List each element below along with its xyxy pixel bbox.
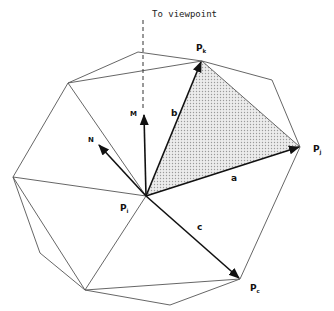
shaded-triangle <box>146 61 300 196</box>
point-pj-label: Pj <box>313 144 322 156</box>
to-viewpoint-label: To viewpoint <box>152 9 217 19</box>
vector-c-arrow <box>146 196 239 278</box>
triangulated-mesh-diagram: To viewpoint Pk Pj Pi Pc a b c M N <box>0 0 334 311</box>
vector-n-label: N <box>88 136 94 144</box>
vector-n-arrow <box>99 145 146 196</box>
point-pk-label: Pk <box>196 43 207 54</box>
point-pi-label: Pi <box>120 203 129 214</box>
point-pc-label: Pc <box>250 283 260 294</box>
vector-a-label: a <box>231 173 237 183</box>
vector-c-label: c <box>197 222 202 232</box>
vector-m-label: M <box>130 110 137 118</box>
vector-b-label: b <box>171 108 178 118</box>
vector-m-arrow <box>144 115 146 196</box>
